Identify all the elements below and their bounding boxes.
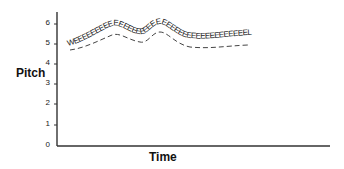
y-tick-label: 0: [40, 140, 50, 149]
pitch-chart: WEEEEEEEEEEEEEEEEEEEEEEEEEEEEEEEEEEEEEEE…: [0, 0, 344, 169]
y-tick-label: 1: [40, 119, 50, 128]
y-tick-label: 6: [40, 18, 50, 27]
x-axis-label: Time: [149, 150, 177, 164]
y-tick-label: 5: [40, 38, 50, 47]
y-axis-label: Pitch: [16, 66, 45, 80]
y-tick-label: 2: [40, 98, 50, 107]
pitch-letters: WEEEEEEEEEEEEEEEEEEEEEEEEEEEEEEEEEEEEEEE…: [0, 0, 253, 48]
